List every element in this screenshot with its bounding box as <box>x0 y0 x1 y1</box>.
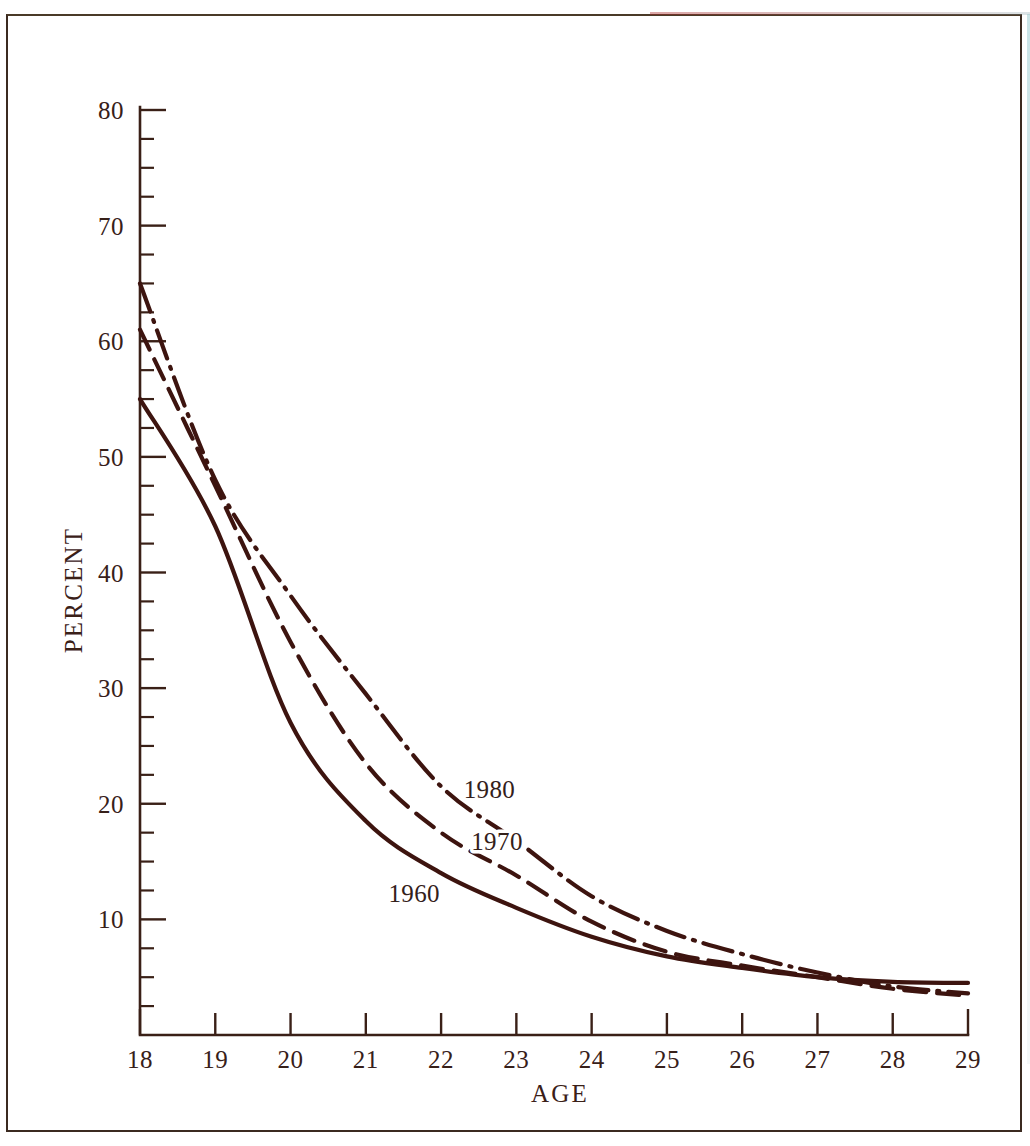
series-line-1980 <box>140 283 968 993</box>
series-label-1980: 1980 <box>464 776 516 803</box>
y-axis-tick-labels: 8070605040302010 <box>98 97 124 933</box>
y-axis-ticks <box>140 110 166 1006</box>
x-tick-label: 27 <box>804 1046 830 1073</box>
line-chart: 8070605040302010 18192021222324252627282… <box>0 0 1030 1146</box>
y-tick-label: 30 <box>98 675 124 702</box>
x-tick-label: 26 <box>729 1046 755 1073</box>
series-label-1970: 1970 <box>471 828 523 855</box>
data-series-group <box>140 283 968 995</box>
y-tick-label: 20 <box>98 791 124 818</box>
plot-area: 8070605040302010 18192021222324252627282… <box>0 0 1030 1146</box>
x-axis-tick-labels: 181920212223242526272829 <box>127 1046 981 1073</box>
series-label-1960: 1960 <box>388 880 440 907</box>
y-tick-label: 70 <box>98 213 124 240</box>
x-tick-label: 23 <box>503 1046 529 1073</box>
x-axis-ticks <box>140 1009 968 1035</box>
axis-group <box>140 107 968 1035</box>
x-tick-label: 28 <box>880 1046 906 1073</box>
x-tick-label: 25 <box>654 1046 680 1073</box>
y-tick-label: 10 <box>98 906 124 933</box>
y-tick-label: 40 <box>98 560 124 587</box>
x-tick-label: 18 <box>127 1046 153 1073</box>
y-tick-label: 60 <box>98 328 124 355</box>
x-tick-label: 19 <box>202 1046 228 1073</box>
x-tick-label: 29 <box>955 1046 981 1073</box>
x-tick-label: 20 <box>278 1046 304 1073</box>
series-line-1960 <box>140 399 968 983</box>
y-tick-label: 50 <box>98 444 124 471</box>
x-tick-label: 22 <box>428 1046 454 1073</box>
x-tick-label: 24 <box>579 1046 605 1073</box>
axis-lines <box>140 107 968 1035</box>
y-tick-label: 80 <box>98 97 124 124</box>
x-tick-label: 21 <box>353 1046 379 1073</box>
x-axis-title: AGE <box>531 1080 589 1107</box>
y-axis-title: PERCENT <box>60 527 87 654</box>
